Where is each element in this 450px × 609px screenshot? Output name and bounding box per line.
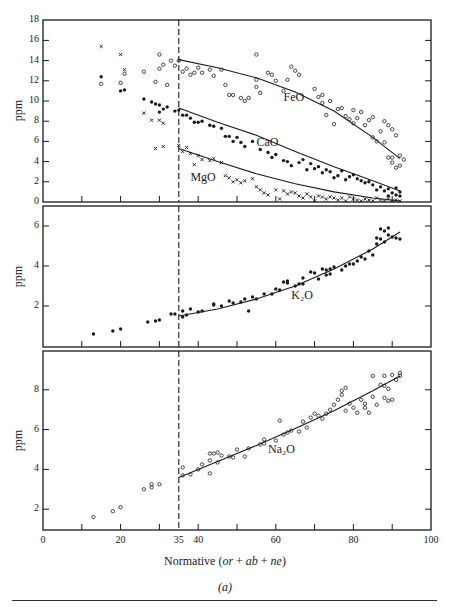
data-point-FeO	[394, 134, 397, 137]
data-point-FeO	[100, 82, 103, 85]
data-point-FeO	[391, 156, 394, 159]
data-point-MgO	[100, 45, 103, 48]
y-tick-label: 6	[25, 423, 39, 434]
data-point-CaO	[224, 135, 227, 138]
data-point-FeO	[266, 71, 269, 74]
data-point-CaO	[398, 190, 401, 193]
data-point-K2O	[398, 237, 401, 240]
data-point-K2O	[309, 270, 312, 273]
data-point-CaO	[158, 110, 161, 113]
data-point-K2O	[251, 295, 254, 298]
data-point-K2O	[286, 279, 289, 282]
data-point-MgO	[232, 180, 235, 183]
data-point-MgO	[263, 191, 266, 194]
data-point-MgO	[325, 197, 328, 200]
x-tick-label: 40	[188, 534, 208, 545]
data-point-Na2O	[208, 459, 211, 462]
data-point-FeO	[224, 83, 227, 86]
data-point-FeO	[344, 114, 347, 117]
data-point-CaO	[212, 125, 215, 128]
data-point-K2O	[239, 300, 242, 303]
data-point-FeO	[336, 107, 339, 110]
data-point-CaO	[173, 109, 176, 112]
data-point-FeO	[181, 70, 184, 73]
data-point-CaO	[150, 100, 153, 103]
data-point-Na2O	[336, 398, 339, 401]
data-point-FeO	[383, 141, 386, 144]
data-point-Na2O	[220, 454, 223, 457]
data-point-K2O	[394, 236, 397, 239]
data-point-MgO	[185, 146, 188, 149]
x-axis-label-suffix: )	[282, 554, 286, 568]
data-point-K2O	[359, 255, 362, 258]
data-point-Na2O	[383, 396, 386, 399]
data-point-K2O	[262, 292, 265, 295]
data-point-MgO	[286, 192, 289, 195]
data-point-CaO	[193, 121, 196, 124]
data-point-K2O	[301, 282, 304, 285]
data-point-K2O	[371, 253, 374, 256]
data-point-FeO	[193, 71, 196, 74]
data-point-MgO	[363, 197, 366, 200]
y-tick-label: 2	[25, 502, 39, 513]
data-point-K2O	[375, 242, 378, 245]
data-point-CaO	[235, 136, 238, 139]
x-axis-label-plus: +	[258, 554, 271, 568]
data-point-K2O	[189, 307, 192, 310]
data-point-FeO	[356, 116, 359, 119]
data-point-Na2O	[243, 455, 246, 458]
data-point-MgO	[290, 190, 293, 193]
y-tick-label: 14	[25, 54, 39, 65]
data-point-K2O	[313, 271, 316, 274]
data-point-K2O	[200, 309, 203, 312]
data-point-K2O	[197, 310, 200, 313]
data-point-FeO	[340, 106, 343, 109]
data-point-FeO	[162, 63, 165, 66]
data-point-CaO	[394, 186, 397, 189]
data-point-Na2O	[142, 488, 145, 491]
data-point-CaO	[100, 75, 103, 78]
data-point-Na2O	[367, 411, 370, 414]
data-point-CaO	[391, 191, 394, 194]
data-point-FeO	[332, 123, 335, 126]
data-point-MgO	[348, 195, 351, 198]
data-point-MgO	[340, 196, 343, 199]
data-point-Na2O	[212, 452, 215, 455]
data-point-Na2O	[297, 430, 300, 433]
y-tick-label: 16	[25, 33, 39, 44]
data-point-Na2O	[359, 398, 362, 401]
data-point-K2O	[247, 309, 250, 312]
data-point-K2O	[111, 329, 114, 332]
data-point-FeO	[123, 72, 126, 75]
data-point-K2O	[328, 267, 331, 270]
data-point-K2O	[169, 312, 172, 315]
x-tick-label: 60	[266, 534, 286, 545]
data-point-FeO	[158, 67, 161, 70]
data-point-K2O	[212, 302, 215, 305]
data-point-CaO	[305, 168, 308, 171]
data-point-K2O	[340, 268, 343, 271]
y-tick-label: 8	[25, 383, 39, 394]
data-point-FeO	[197, 66, 200, 69]
data-point-FeO	[158, 53, 161, 56]
data-point-Na2O	[262, 438, 265, 441]
data-point-K2O	[375, 236, 378, 239]
data-point-K2O	[255, 297, 258, 300]
panel-frame-top	[43, 20, 431, 202]
data-point-Na2O	[371, 395, 374, 398]
data-point-Na2O	[278, 419, 281, 422]
data-point-K2O	[332, 265, 335, 268]
data-point-MgO	[162, 122, 165, 125]
data-point-K2O	[274, 287, 277, 290]
data-point-K2O	[317, 277, 320, 280]
data-point-MgO	[162, 145, 165, 148]
y-tick-label: 6	[25, 134, 39, 145]
data-point-MgO	[274, 188, 277, 191]
data-point-CaO	[231, 140, 234, 143]
data-point-MgO	[150, 119, 153, 122]
data-point-MgO	[321, 195, 324, 198]
data-point-CaO	[309, 162, 312, 165]
data-point-FeO	[294, 69, 297, 72]
data-point-FeO	[165, 83, 168, 86]
data-point-Na2O	[200, 463, 203, 466]
